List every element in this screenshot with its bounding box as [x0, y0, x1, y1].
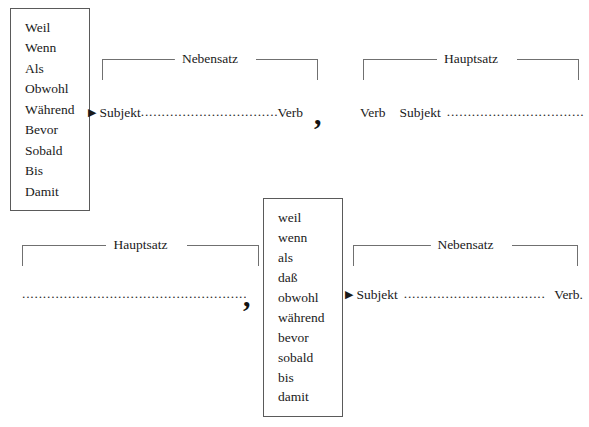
clause-verb-label: Verb — [278, 106, 304, 120]
conjunction-item: obwohl — [278, 291, 342, 305]
bracket-tick-left — [363, 59, 364, 80]
bracket-line-right — [517, 59, 579, 60]
bracket-hauptsatz-bottom: Hauptsatz — [22, 236, 259, 266]
conjunction-box-capitalized: Weil Wenn Als Obwohl Während Bevor Sobal… — [10, 8, 90, 211]
bracket-line-right — [256, 59, 318, 60]
conjunction-item: Wenn — [25, 41, 89, 55]
conjunction-box-lowercase: weil wenn als daß obwohl während bevor s… — [263, 198, 343, 417]
bracket-tick-left — [22, 245, 23, 266]
bracket-label: Nebensatz — [430, 236, 500, 254]
bracket-line-left — [102, 59, 176, 60]
conjunction-item: Obwohl — [25, 82, 89, 96]
conjunction-item: Weil — [25, 21, 89, 35]
bracket-tick-left — [102, 59, 103, 80]
bracket-hauptsatz-top: Hauptsatz — [363, 50, 579, 80]
conjunction-item: als — [278, 251, 342, 265]
clause-verb-label: Verb — [360, 106, 386, 120]
conjunction-item: damit — [278, 390, 342, 404]
conjunction-item: Sobald — [25, 144, 89, 158]
bracket-tick-right — [577, 245, 578, 266]
bracket-line-left — [22, 245, 106, 246]
bracket-tick-right — [317, 59, 318, 80]
conjunction-item: während — [278, 311, 342, 325]
conjunction-item: wenn — [278, 231, 342, 245]
clause-subjekt-label: Subjekt — [400, 106, 441, 120]
bracket-tick-right — [578, 59, 579, 80]
clause-dots: ........................................ — [141, 105, 278, 119]
clause-dots: ................................. — [447, 105, 588, 119]
clause-subjekt-label: Subjekt — [356, 288, 397, 302]
bracket-line-left — [353, 245, 431, 246]
triangle-marker-icon: ▶ — [345, 289, 353, 300]
clause-subjekt-label: Subjekt — [99, 106, 140, 120]
bracket-nebensatz-bottom: Nebensatz — [353, 236, 578, 266]
bracket-label: Hauptsatz — [437, 50, 505, 68]
clause-hauptsatz-bottom: ........................................… — [22, 288, 246, 302]
conjunction-item: Damit — [25, 185, 89, 199]
clause-nebensatz-bottom: ▶ Subjekt ..............................… — [345, 288, 583, 302]
conjunction-item: bis — [278, 371, 342, 385]
clause-dots: .................................. — [404, 287, 548, 301]
conjunction-item: Bevor — [25, 123, 89, 137]
conjunction-item: Während — [25, 103, 89, 117]
conjunction-item: Als — [25, 62, 89, 76]
clause-nebensatz-top: ▶ Subjekt ..............................… — [88, 106, 303, 120]
clause-verb-label: Verb. — [554, 288, 583, 302]
bracket-tick-right — [258, 245, 259, 266]
bracket-label: Nebensatz — [175, 50, 245, 68]
bracket-label: Hauptsatz — [107, 236, 175, 254]
bracket-line-left — [363, 59, 437, 60]
comma-separator-top: , — [314, 99, 322, 129]
conjunction-item: Bis — [25, 164, 89, 178]
bracket-nebensatz-top: Nebensatz — [102, 50, 318, 80]
triangle-marker-icon: ▶ — [88, 107, 96, 118]
clause-dots: ........................................… — [22, 287, 246, 301]
bracket-line-right — [187, 245, 259, 246]
conjunction-item: bevor — [278, 331, 342, 345]
bracket-line-right — [512, 245, 578, 246]
clause-hauptsatz-top: Verb Subjekt ...........................… — [360, 106, 588, 120]
conjunction-item: daß — [278, 271, 342, 285]
conjunction-item: sobald — [278, 351, 342, 365]
bracket-tick-left — [353, 245, 354, 266]
conjunction-item: weil — [278, 211, 342, 225]
comma-separator-bottom: , — [243, 281, 251, 311]
